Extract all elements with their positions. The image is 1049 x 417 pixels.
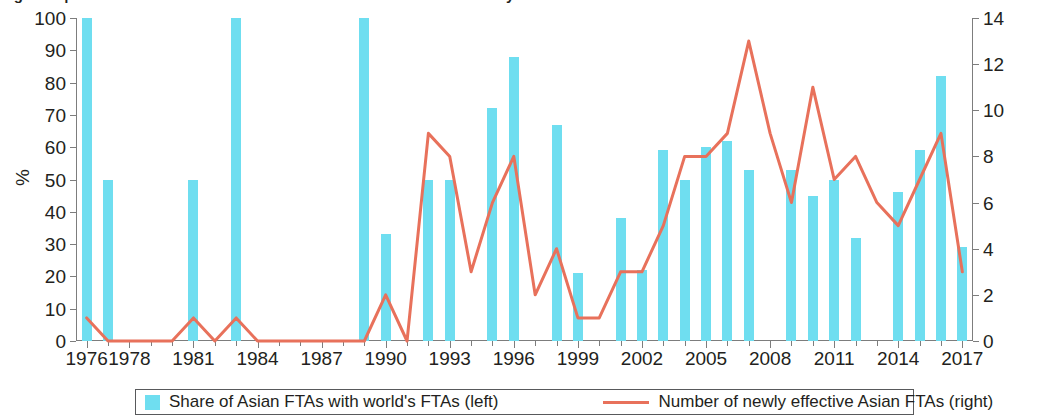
x-axis-tick <box>877 341 878 346</box>
x-axis-tick-label: 1987 <box>300 348 342 370</box>
left-axis-tick-label: 20 <box>45 267 66 286</box>
right-axis-tick-label: 12 <box>983 55 1004 74</box>
right-axis-tick-label: 14 <box>983 9 1004 28</box>
x-axis-tick-label: 1996 <box>493 348 535 370</box>
x-axis-tick <box>599 341 600 346</box>
right-axis-tick <box>973 110 979 111</box>
left-axis-tick-label: 10 <box>45 299 66 318</box>
left-axis-tick-label: 90 <box>45 41 66 60</box>
right-axis-tick <box>973 203 979 204</box>
x-axis-tick <box>727 341 728 346</box>
figure-title: Figure 3 | Share of Asian FTAs with worl… <box>0 0 1049 6</box>
x-axis-tick <box>791 341 792 346</box>
line-swatch-icon <box>603 401 649 404</box>
bar-swatch-icon <box>145 395 160 410</box>
x-axis-tick <box>663 341 664 346</box>
right-axis-tick <box>973 64 979 65</box>
right-axis-tick <box>973 295 979 296</box>
chart-legend: Share of Asian FTAs with world's FTAs (l… <box>135 389 914 415</box>
x-axis-tick-label: 1990 <box>365 348 407 370</box>
x-axis-tick-label: 2002 <box>621 348 663 370</box>
left-axis-tick <box>70 341 76 342</box>
legend-label-line: Number of newly effective Asian FTAs (ri… <box>658 392 993 412</box>
x-axis-tick <box>856 341 857 346</box>
x-axis-tick <box>492 341 493 346</box>
right-axis-tick-label: 8 <box>983 147 994 166</box>
right-axis-tick <box>973 249 979 250</box>
right-axis-tick-label: 0 <box>983 332 994 351</box>
x-axis-tick <box>87 341 88 348</box>
right-axis-tick-label: 6 <box>983 193 994 212</box>
x-axis-tick <box>514 341 515 348</box>
right-axis-tick <box>973 341 979 342</box>
x-axis-tick-label: 2008 <box>749 348 791 370</box>
x-axis-tick <box>941 341 942 346</box>
left-axis-tick-label: 50 <box>45 170 66 189</box>
left-axis-tick-label: 40 <box>45 202 66 221</box>
x-axis-tick <box>535 341 536 346</box>
right-axis-tick-label: 4 <box>983 239 994 258</box>
x-axis-tick <box>962 341 963 348</box>
x-axis-tick <box>428 341 429 346</box>
x-axis-tick <box>706 341 707 348</box>
legend-entry-line: Number of newly effective Asian FTAs (ri… <box>603 392 993 412</box>
plot-area: 0102030405060708090100 02468101214 19761… <box>76 18 973 341</box>
y-axis-title: % <box>12 169 34 186</box>
figure-container: Figure 3 | Share of Asian FTAs with worl… <box>0 0 1049 417</box>
left-axis-tick-label: 0 <box>55 332 66 351</box>
x-axis-tick <box>685 341 686 346</box>
x-axis-tick-label: 1981 <box>172 348 214 370</box>
x-axis-tick <box>578 341 579 348</box>
legend-entry-bars: Share of Asian FTAs with world's FTAs (l… <box>145 392 498 412</box>
right-axis-tick <box>973 18 979 19</box>
x-axis-tick-label: 1976 <box>66 348 108 370</box>
left-axis-tick-label: 100 <box>34 9 66 28</box>
x-axis-tick <box>813 341 814 346</box>
left-axis-tick-label: 60 <box>45 138 66 157</box>
x-axis-tick <box>898 341 899 348</box>
x-axis-tick-label: 1999 <box>557 348 599 370</box>
x-axis-tick <box>236 341 237 346</box>
x-axis-tick <box>770 341 771 348</box>
x-axis-tick <box>642 341 643 348</box>
x-axis-tick-label: 1993 <box>429 348 471 370</box>
x-axis-tick <box>471 341 472 346</box>
x-axis-tick-label: 2011 <box>814 348 855 370</box>
x-axis-tick <box>386 341 387 348</box>
line-path <box>87 41 963 341</box>
left-axis-tick-label: 30 <box>45 235 66 254</box>
right-axis-tick-label: 2 <box>983 285 994 304</box>
right-axis-tick <box>973 156 979 157</box>
x-axis-tick <box>749 341 750 346</box>
x-axis-tick-label: 2005 <box>685 348 727 370</box>
right-axis-tick-label: 10 <box>983 101 1004 120</box>
line-series <box>76 18 973 341</box>
left-axis-tick-label: 70 <box>45 105 66 124</box>
x-axis-tick-label: 2014 <box>877 348 919 370</box>
legend-label-bars: Share of Asian FTAs with world's FTAs (l… <box>169 392 498 412</box>
x-axis-tick <box>557 341 558 346</box>
x-axis-tick-label: 2017 <box>941 348 983 370</box>
left-axis-tick-label: 80 <box>45 73 66 92</box>
x-axis-tick-label: 1984 <box>236 348 278 370</box>
x-axis-tick <box>450 341 451 348</box>
x-axis-tick <box>193 341 194 348</box>
x-axis-tick <box>834 341 835 348</box>
x-axis-tick <box>621 341 622 346</box>
x-axis-tick-label: 1978 <box>108 348 150 370</box>
x-axis-tick <box>920 341 921 346</box>
